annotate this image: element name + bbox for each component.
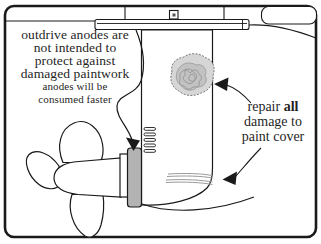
repair-note-line-3: paint cover xyxy=(227,129,319,144)
repair-note-line-2: damage to xyxy=(227,114,319,129)
repair-note-line-1: repair all xyxy=(227,99,319,114)
damage-spot xyxy=(171,54,214,96)
anode-warning-text: outdrive anodes are not intended to prot… xyxy=(4,28,146,105)
figure-canvas: outdrive anodes are not intended to prot… xyxy=(0,0,321,244)
anode-ring xyxy=(128,148,142,207)
bubble-note-line: consumed faster xyxy=(4,94,146,106)
bolt-center xyxy=(173,14,176,17)
repair-note-bold: all xyxy=(284,99,299,114)
bubble-note-line: anodes will be xyxy=(4,81,146,93)
bubble-line: damaged paintwork xyxy=(4,67,146,80)
repair-note-text: repair all damage to paint cover xyxy=(227,99,319,144)
trim-cylinder-cap xyxy=(262,7,317,25)
repair-note-prefix: repair xyxy=(248,99,284,114)
